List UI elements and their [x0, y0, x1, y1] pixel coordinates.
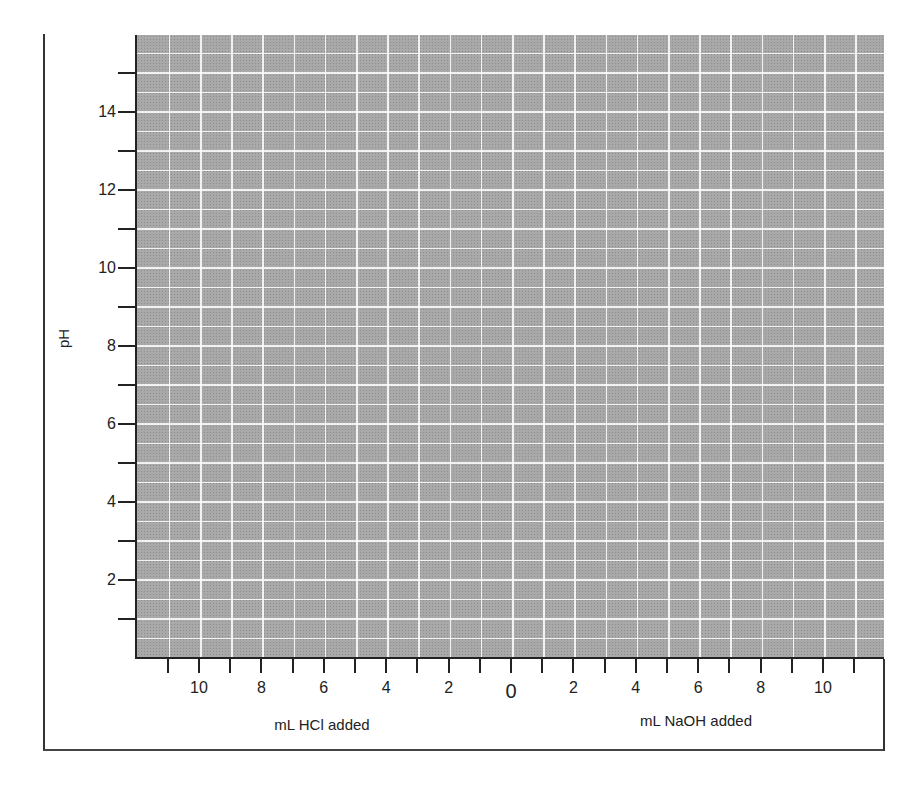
x-tick-mark — [604, 659, 606, 673]
grid-line-horizontal — [137, 72, 884, 74]
x-tick-mark — [697, 659, 699, 673]
x-tick-label-naoh: 2 — [569, 679, 578, 697]
x-tick-mark — [167, 659, 169, 673]
x-tick-mark — [292, 659, 294, 673]
x-tick-mark — [853, 659, 855, 673]
grid-line-horizontal — [137, 267, 884, 269]
grid-line-horizontal — [137, 384, 884, 386]
y-tick-mark — [118, 267, 135, 269]
y-tick-label: 14 — [98, 103, 116, 121]
x-tick-label-naoh: 6 — [694, 679, 703, 697]
x-tick-mark — [572, 659, 574, 673]
grid-line-horizontal — [137, 618, 884, 620]
grid-line-horizontal — [137, 326, 884, 328]
x-tick-mark — [666, 659, 668, 673]
grid-line-horizontal — [137, 404, 884, 406]
grid-line-horizontal — [137, 209, 884, 211]
grid-line-horizontal — [137, 131, 884, 133]
grid-line-horizontal — [137, 150, 884, 152]
y-tick-mark — [118, 150, 135, 152]
y-tick-label: 2 — [107, 571, 116, 589]
x-tick-mark — [385, 659, 387, 673]
x-tick-mark — [510, 659, 512, 673]
x-tick-label-naoh: 4 — [631, 679, 640, 697]
grid-line-horizontal — [137, 53, 884, 55]
grid-line-horizontal — [137, 638, 884, 640]
grid-line-horizontal — [137, 423, 884, 425]
x-tick-mark — [323, 659, 325, 673]
x-tick-mark — [354, 659, 356, 673]
grid-line-horizontal — [137, 345, 884, 347]
grid-line-horizontal — [137, 287, 884, 289]
x-tick-label-zero: 0 — [505, 680, 516, 703]
y-tick-mark — [118, 423, 135, 425]
y-tick-mark — [118, 189, 135, 191]
y-tick-label: 12 — [98, 181, 116, 199]
grid-line-horizontal — [137, 228, 884, 230]
grid-line-horizontal — [137, 248, 884, 250]
y-tick-mark — [118, 345, 135, 347]
x-tick-mark — [260, 659, 262, 673]
x-tick-label-hcl: 8 — [257, 679, 266, 697]
x-tick-label-hcl: 10 — [190, 679, 208, 697]
y-tick-mark — [118, 384, 135, 386]
plot-area — [135, 35, 884, 659]
grid-line-horizontal — [137, 501, 884, 503]
y-tick-mark — [118, 540, 135, 542]
y-tick-mark — [118, 228, 135, 230]
grid-line-horizontal — [137, 306, 884, 308]
y-tick-label: 8 — [107, 337, 116, 355]
grid-line-horizontal — [137, 482, 884, 484]
y-tick-mark — [118, 306, 135, 308]
grid-line-horizontal — [137, 365, 884, 367]
x-tick-label-naoh: 8 — [756, 679, 765, 697]
x-tick-mark — [198, 659, 200, 673]
y-tick-mark — [118, 501, 135, 503]
x-tick-label-hcl: 6 — [319, 679, 328, 697]
y-tick-mark — [118, 618, 135, 620]
y-tick-mark — [118, 579, 135, 581]
x-tick-label-naoh: 10 — [814, 679, 832, 697]
x-tick-mark — [416, 659, 418, 673]
grid-line-horizontal — [137, 443, 884, 445]
grid-line-horizontal — [137, 189, 884, 191]
x-tick-label-hcl: 4 — [382, 679, 391, 697]
grid-line-horizontal — [137, 521, 884, 523]
grid-line-horizontal — [137, 579, 884, 581]
x-tick-mark — [448, 659, 450, 673]
y-tick-label: 6 — [107, 415, 116, 433]
x-tick-mark — [479, 659, 481, 673]
y-tick-mark — [118, 462, 135, 464]
x-tick-mark — [541, 659, 543, 673]
grid-line-horizontal — [137, 92, 884, 94]
x-tick-mark — [728, 659, 730, 673]
x-axis-title-naoh: mL NaOH added — [640, 712, 752, 729]
outer-frame-right — [883, 659, 885, 751]
y-tick-label: 10 — [98, 259, 116, 277]
x-tick-mark — [229, 659, 231, 673]
x-tick-mark — [791, 659, 793, 673]
grid-line-horizontal — [137, 462, 884, 464]
grid-line-horizontal — [137, 560, 884, 562]
y-tick-mark — [118, 72, 135, 74]
y-tick-mark — [118, 111, 135, 113]
x-tick-mark — [635, 659, 637, 673]
grid-line-horizontal — [137, 170, 884, 172]
outer-frame-bottom — [43, 749, 885, 751]
x-axis-title-hcl: mL HCl added — [274, 716, 369, 733]
grid-line-horizontal — [137, 111, 884, 113]
y-axis-title: pH — [55, 329, 72, 348]
grid-line-horizontal — [137, 540, 884, 542]
x-tick-mark — [822, 659, 824, 673]
x-tick-label-hcl: 2 — [444, 679, 453, 697]
y-tick-label: 4 — [107, 493, 116, 511]
grid-line-horizontal — [137, 599, 884, 601]
x-tick-mark — [760, 659, 762, 673]
outer-frame-left — [43, 34, 45, 751]
